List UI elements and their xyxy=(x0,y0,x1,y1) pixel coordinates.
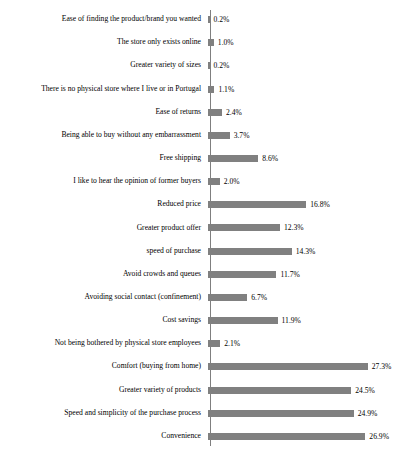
bar xyxy=(208,340,220,347)
value-label: 14.3% xyxy=(296,247,316,256)
chart-row: Ease of finding the product/brand you wa… xyxy=(4,8,395,31)
value-label: 8.6% xyxy=(262,154,278,163)
category-label: Convenience xyxy=(4,432,206,441)
bar-wrapper: 6.7% xyxy=(206,286,395,309)
value-label: 2.1% xyxy=(224,339,240,348)
category-label: Avoid crowds and queues xyxy=(4,270,206,279)
category-label: Comfort (buying from home) xyxy=(4,362,206,371)
chart-row: Comfort (buying from home)27.3% xyxy=(4,355,395,378)
value-label: 12.3% xyxy=(284,223,304,232)
chart-row: Greater variety of sizes0.2% xyxy=(4,54,395,77)
bar xyxy=(208,294,247,301)
bar-wrapper: 1.0% xyxy=(206,31,395,54)
bar-wrapper: 8.6% xyxy=(206,147,395,170)
chart-row: Reduced price16.8% xyxy=(4,193,395,216)
bar-wrapper: 2.4% xyxy=(206,101,395,124)
bar xyxy=(208,201,306,208)
bar xyxy=(208,363,368,370)
category-label: Ease of finding the product/brand you wa… xyxy=(4,15,206,24)
value-label: 1.0% xyxy=(218,38,234,47)
bar xyxy=(208,271,276,278)
bar-wrapper: 11.7% xyxy=(206,263,395,286)
value-label: 24.5% xyxy=(355,386,375,395)
chart-row: Greater product offer12.3% xyxy=(4,216,395,239)
chart-row: Free shipping8.6% xyxy=(4,147,395,170)
value-label: 3.7% xyxy=(234,131,250,140)
bar-wrapper: 2.1% xyxy=(206,332,395,355)
chart-plot-area: Ease of finding the product/brand you wa… xyxy=(4,8,395,448)
bar xyxy=(208,410,354,417)
bar-chart: Ease of finding the product/brand you wa… xyxy=(0,0,399,454)
value-label: 0.2% xyxy=(214,15,230,24)
category-label: Speed and simplicity of the purchase pro… xyxy=(4,409,206,418)
category-label: Greater variety of sizes xyxy=(4,61,206,70)
bar-wrapper: 16.8% xyxy=(206,193,395,216)
category-label: Reduced price xyxy=(4,200,206,209)
category-label: Not being bothered by physical store emp… xyxy=(4,339,206,348)
bar xyxy=(208,387,351,394)
value-label: 1.1% xyxy=(218,85,234,94)
bar-wrapper: 24.9% xyxy=(206,402,395,425)
chart-row: Greater variety of products24.5% xyxy=(4,379,395,402)
chart-row: Ease of returns2.4% xyxy=(4,101,395,124)
bar xyxy=(208,86,214,93)
category-label: speed of purchase xyxy=(4,247,206,256)
bar xyxy=(208,62,210,69)
bar xyxy=(208,39,214,46)
bar-wrapper: 12.3% xyxy=(206,216,395,239)
bar xyxy=(208,16,210,23)
bar xyxy=(208,132,230,139)
category-label: The store only exists online xyxy=(4,38,206,47)
value-label: 2.0% xyxy=(224,177,240,186)
chart-row: There is no physical store where I live … xyxy=(4,77,395,100)
category-label: Greater product offer xyxy=(4,224,206,233)
bar-wrapper: 1.1% xyxy=(206,77,395,100)
bar-wrapper: 24.5% xyxy=(206,379,395,402)
chart-row: I like to hear the opinion of former buy… xyxy=(4,170,395,193)
bar xyxy=(208,155,258,162)
chart-row: Being able to buy without any embarrassm… xyxy=(4,124,395,147)
chart-row: Cost savings11.9% xyxy=(4,309,395,332)
bar xyxy=(208,109,222,116)
bar-wrapper: 26.9% xyxy=(206,425,395,448)
category-label: There is no physical store where I live … xyxy=(4,85,206,94)
bar xyxy=(208,178,220,185)
category-label: Avoiding social contact (confinement) xyxy=(4,293,206,302)
value-label: 6.7% xyxy=(251,293,267,302)
category-label: Ease of returns xyxy=(4,108,206,117)
bar-wrapper: 2.0% xyxy=(206,170,395,193)
value-label: 11.9% xyxy=(282,316,301,325)
chart-row: speed of purchase14.3% xyxy=(4,240,395,263)
category-label: I like to hear the opinion of former buy… xyxy=(4,177,206,186)
chart-row: Avoid crowds and queues11.7% xyxy=(4,263,395,286)
value-label: 24.9% xyxy=(358,409,378,418)
bar xyxy=(208,433,365,440)
value-label: 26.9% xyxy=(369,432,389,441)
category-label: Cost savings xyxy=(4,316,206,325)
bar-wrapper: 27.3% xyxy=(206,355,395,378)
bar xyxy=(208,317,278,324)
bar-wrapper: 14.3% xyxy=(206,240,395,263)
bar-wrapper: 3.7% xyxy=(206,124,395,147)
value-label: 0.2% xyxy=(214,61,230,70)
value-label: 27.3% xyxy=(372,362,392,371)
bar-wrapper: 11.9% xyxy=(206,309,395,332)
chart-row: Avoiding social contact (confinement)6.7… xyxy=(4,286,395,309)
value-label: 16.8% xyxy=(310,200,330,209)
bar-wrapper: 0.2% xyxy=(206,8,395,31)
category-label: Being able to buy without any embarrassm… xyxy=(4,131,206,140)
category-label: Free shipping xyxy=(4,154,206,163)
category-label: Greater variety of products xyxy=(4,386,206,395)
chart-row: Speed and simplicity of the purchase pro… xyxy=(4,402,395,425)
bar xyxy=(208,248,292,255)
value-label: 11.7% xyxy=(280,270,299,279)
value-label: 2.4% xyxy=(226,108,242,117)
bar-wrapper: 0.2% xyxy=(206,54,395,77)
chart-row: Not being bothered by physical store emp… xyxy=(4,332,395,355)
chart-row: The store only exists online1.0% xyxy=(4,31,395,54)
chart-row: Convenience26.9% xyxy=(4,425,395,448)
bar xyxy=(208,224,280,231)
